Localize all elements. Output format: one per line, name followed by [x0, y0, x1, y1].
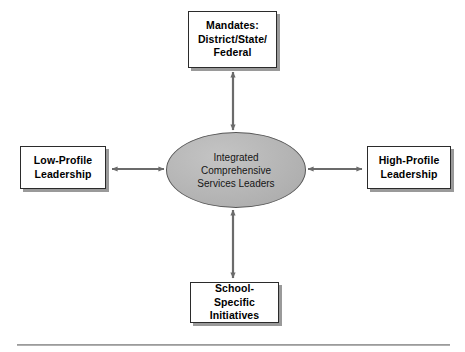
footer-divider-rule	[17, 344, 450, 346]
node-label-school-specific-initiatives: School-Specific Initiatives	[191, 282, 278, 323]
node-box-low-profile-leadership: Low-Profile Leadership	[20, 146, 106, 189]
node-label-low-profile-leadership: Low-Profile Leadership	[30, 154, 96, 181]
node-label-high-profile-leadership: High-Profile Leadership	[375, 154, 444, 181]
node-label-mandates: Mandates: District/State/ Federal	[194, 19, 271, 60]
node-box-school-specific-initiatives: School-Specific Initiatives	[190, 282, 279, 323]
center-node-ellipse: Integrated Comprehensive Services Leader…	[166, 132, 306, 208]
node-box-mandates: Mandates: District/State/ Federal	[188, 11, 277, 68]
center-node-label: Integrated Comprehensive Services Leader…	[166, 132, 306, 208]
diagram-canvas: Mandates: District/State/ Federal Low-Pr…	[0, 0, 465, 352]
node-box-high-profile-leadership: High-Profile Leadership	[367, 146, 451, 189]
